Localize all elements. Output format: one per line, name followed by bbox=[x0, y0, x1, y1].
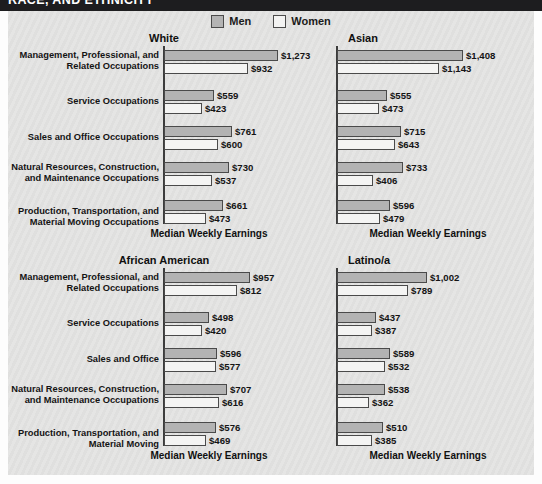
bar-men bbox=[164, 272, 250, 283]
bar-value-label: $385 bbox=[375, 435, 396, 446]
bar-value-label: $577 bbox=[219, 361, 240, 372]
bar-value-label: $406 bbox=[376, 175, 397, 186]
bar-men bbox=[337, 272, 427, 283]
section-header-title: RACE, AND ETHNICITY bbox=[8, 0, 154, 7]
chart-latino: Latino/a Management, Professional, and R… bbox=[322, 252, 534, 474]
bar-men bbox=[337, 90, 387, 101]
charts-grid: White Management, Professional, and Rela… bbox=[0, 30, 542, 484]
chart-title: White bbox=[8, 30, 320, 46]
bar-men bbox=[164, 348, 217, 359]
bar-row: $532 bbox=[337, 361, 409, 372]
legend-swatch-men-icon bbox=[211, 15, 224, 28]
bar-row: $387 bbox=[337, 325, 396, 336]
category-label: Sales and Office bbox=[8, 354, 159, 365]
bar-men bbox=[164, 422, 216, 433]
category-label: Service Occupations bbox=[8, 318, 159, 329]
bar-men bbox=[164, 126, 232, 137]
bar-row: $589 bbox=[337, 348, 414, 359]
bar-women bbox=[337, 285, 408, 296]
bar-value-label: $510 bbox=[386, 422, 407, 433]
x-axis-caption: Median Weekly Earnings bbox=[8, 450, 320, 461]
bar-value-label: $362 bbox=[372, 397, 393, 408]
category-label: Production, Transportation, and Material… bbox=[8, 206, 159, 227]
bar-row: $661 bbox=[164, 200, 247, 211]
bar-women bbox=[337, 103, 379, 114]
category-label: Production, Transportation, and Material… bbox=[8, 428, 159, 449]
bar-row: $420 bbox=[164, 325, 226, 336]
bar-row: $538 bbox=[337, 384, 409, 395]
bar-value-label: $498 bbox=[212, 312, 233, 323]
bar-women bbox=[337, 361, 385, 372]
bar-row: $596 bbox=[164, 348, 241, 359]
bar-men bbox=[337, 126, 401, 137]
bar-value-label: $538 bbox=[388, 384, 409, 395]
category-label: Sales and Office Occupations bbox=[8, 132, 159, 143]
category-label: Management, Professional, and Related Oc… bbox=[8, 272, 159, 293]
bar-value-label: $812 bbox=[240, 285, 261, 296]
x-axis-caption: Median Weekly Earnings bbox=[322, 450, 534, 461]
bar-value-label: $559 bbox=[217, 90, 238, 101]
bar-value-label: $616 bbox=[222, 397, 243, 408]
bar-row: $510 bbox=[337, 422, 407, 433]
legend-label-men: Men bbox=[229, 15, 251, 27]
bar-women bbox=[164, 285, 237, 296]
bar-men bbox=[337, 384, 385, 395]
bar-row: $555 bbox=[337, 90, 411, 101]
bar-women bbox=[337, 397, 369, 408]
x-axis-caption: Median Weekly Earnings bbox=[8, 228, 320, 239]
bar-value-label: $707 bbox=[230, 384, 251, 395]
bar-value-label: $387 bbox=[375, 325, 396, 336]
plot-area: Management, Professional, and Related Oc… bbox=[322, 46, 534, 224]
bar-value-label: $761 bbox=[235, 126, 256, 137]
figure-page: RACE, AND ETHNICITY Men Women White Mana… bbox=[0, 0, 542, 484]
bar-value-label: $715 bbox=[404, 126, 425, 137]
bar-row: $1,273 bbox=[164, 50, 310, 61]
legend-item-men: Men bbox=[211, 15, 251, 28]
bar-row: $730 bbox=[164, 162, 253, 173]
bar-value-label: $661 bbox=[226, 200, 247, 211]
bar-value-label: $1,408 bbox=[466, 50, 495, 61]
chart-asian: Asian Management, Professional, and Rela… bbox=[322, 30, 534, 252]
bar-women bbox=[164, 213, 206, 224]
bar-value-label: $479 bbox=[383, 213, 404, 224]
bar-row: $957 bbox=[164, 272, 274, 283]
bar-row: $479 bbox=[337, 213, 404, 224]
bar-value-label: $537 bbox=[215, 175, 236, 186]
bar-value-label: $932 bbox=[251, 63, 272, 74]
bar-value-label: $730 bbox=[232, 162, 253, 173]
bar-value-label: $1,002 bbox=[430, 272, 459, 283]
bar-women bbox=[164, 103, 202, 114]
bar-value-label: $589 bbox=[393, 348, 414, 359]
bar-men bbox=[164, 90, 214, 101]
plot-area: Management, Professional, and Related Oc… bbox=[8, 268, 320, 446]
bar-value-label: $596 bbox=[220, 348, 241, 359]
bar-value-label: $473 bbox=[382, 103, 403, 114]
bar-men bbox=[164, 50, 278, 61]
bar-men bbox=[164, 200, 223, 211]
chart-title: Latino/a bbox=[322, 252, 534, 268]
bar-row: $473 bbox=[337, 103, 403, 114]
bar-row: $789 bbox=[337, 285, 432, 296]
bar-value-label: $437 bbox=[379, 312, 400, 323]
bar-row: $362 bbox=[337, 397, 393, 408]
bar-value-label: $532 bbox=[388, 361, 409, 372]
x-axis-caption: Median Weekly Earnings bbox=[322, 228, 534, 239]
bar-row: $715 bbox=[337, 126, 425, 137]
bar-value-label: $420 bbox=[205, 325, 226, 336]
bar-row: $576 bbox=[164, 422, 240, 433]
bar-row: $559 bbox=[164, 90, 238, 101]
bar-value-label: $1,273 bbox=[281, 50, 310, 61]
section-header-bar: RACE, AND ETHNICITY bbox=[0, 0, 542, 11]
bar-row: $616 bbox=[164, 397, 243, 408]
bar-row: $473 bbox=[164, 213, 230, 224]
bar-row: $596 bbox=[337, 200, 414, 211]
bar-women bbox=[337, 213, 380, 224]
bar-row: $733 bbox=[337, 162, 427, 173]
bar-women bbox=[337, 435, 372, 446]
bar-row: $437 bbox=[337, 312, 400, 323]
category-label: Management, Professional, and Related Oc… bbox=[8, 50, 159, 71]
bar-men bbox=[337, 422, 383, 433]
bar-value-label: $423 bbox=[205, 103, 226, 114]
category-label: Service Occupations bbox=[8, 96, 159, 107]
bar-women bbox=[337, 325, 372, 336]
